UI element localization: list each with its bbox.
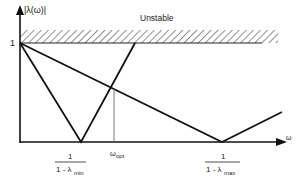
convergence-diagram: |λ(ω)| Unstable 1 ω 1 1 - λ min ω opt 1 …: [0, 0, 301, 182]
curve-lambda-min: [20, 43, 135, 142]
label-max-numerator: 1: [221, 152, 226, 161]
unstable-label: Unstable: [140, 13, 174, 23]
y-tick-one: 1: [10, 38, 15, 48]
label-opt-subscript: opt: [116, 153, 125, 159]
y-axis-label: |λ(ω)|: [24, 5, 46, 15]
curve-lambda-max: [20, 43, 282, 142]
unstable-region: [20, 30, 278, 43]
label-lambda-max: 1 1 - λ max: [205, 152, 240, 176]
label-min-numerator: 1: [68, 152, 73, 161]
label-max-denominator: 1 - λ: [206, 165, 222, 174]
x-axis-label: ω: [286, 134, 292, 141]
label-lambda-min: 1 1 - λ min: [55, 152, 86, 176]
label-min-subscript: min: [74, 170, 84, 176]
label-omega-opt: ω opt: [110, 149, 125, 159]
label-max-subscript: max: [224, 170, 235, 176]
label-min-denominator: 1 - λ: [56, 165, 72, 174]
y-axis-arrow-icon: [16, 5, 24, 15]
